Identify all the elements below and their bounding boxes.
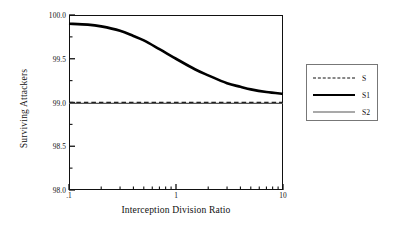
legend-swatch-S2 bbox=[313, 111, 355, 112]
x-tick-label: 10 bbox=[279, 191, 286, 200]
y-axis-title: Surviving Attackers bbox=[18, 39, 29, 179]
y-tick-label: 99.5 bbox=[53, 54, 66, 63]
legend-swatch-S1 bbox=[313, 94, 355, 96]
legend-swatch-S bbox=[313, 77, 355, 78]
legend-item-S1[interactable]: S1 bbox=[307, 86, 379, 103]
y-tick-label: 100.0 bbox=[49, 11, 66, 20]
y-tick-label: 98.5 bbox=[53, 142, 66, 151]
chart-legend: SS1S2 bbox=[306, 64, 378, 121]
x-tick-label: 1 bbox=[174, 191, 178, 200]
x-axis-tick-labels: .1110 bbox=[0, 191, 405, 205]
legend-label: S bbox=[362, 73, 366, 82]
plot-area bbox=[69, 15, 283, 190]
legend-label: S1 bbox=[362, 90, 370, 99]
legend-item-S[interactable]: S bbox=[307, 69, 379, 86]
legend-label: S2 bbox=[362, 107, 370, 116]
x-tick-label: .1 bbox=[66, 191, 72, 200]
chart-figure: 100.099.599.098.598.0 .1110 Surviving At… bbox=[0, 0, 405, 226]
x-axis-title: Interception Division Ratio bbox=[69, 204, 283, 215]
y-tick-label: 99.0 bbox=[53, 98, 66, 107]
legend-item-S2[interactable]: S2 bbox=[307, 103, 379, 120]
